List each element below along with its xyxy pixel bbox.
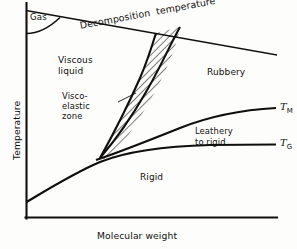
tm-axis-label: TM	[280, 101, 293, 116]
viscoelastic-label-line2: elastic	[62, 102, 90, 111]
tg-subscript: G	[287, 143, 293, 151]
leathery-label-line2: to rigid	[195, 138, 226, 147]
tm-subscript: M	[287, 107, 293, 115]
viscoelastic-hatched-region	[100, 27, 180, 160]
tg-symbol: T	[280, 137, 287, 148]
diagram-canvas	[0, 0, 297, 249]
y-axis-title: Temperature	[12, 101, 22, 160]
viscous-liquid-label-line1: Viscous	[58, 55, 93, 65]
viscoelastic-label-line3: zone	[62, 112, 82, 121]
viscoelastic-label-line1: Visco-	[62, 92, 88, 101]
polymer-state-diagram: Temperature Molecular weight Decompositi…	[0, 0, 297, 249]
x-axis-title: Molecular weight	[97, 231, 177, 241]
rubbery-region-label: Rubbery	[207, 67, 245, 77]
tm-symbol: T	[280, 101, 287, 112]
viscous-liquid-label-line2: liquid	[58, 66, 83, 76]
gas-region-label: Gas	[30, 13, 47, 23]
leathery-label-line1: Leathery	[195, 127, 233, 136]
rigid-region-label: Rigid	[140, 172, 163, 182]
tg-axis-label: TG	[280, 137, 292, 152]
